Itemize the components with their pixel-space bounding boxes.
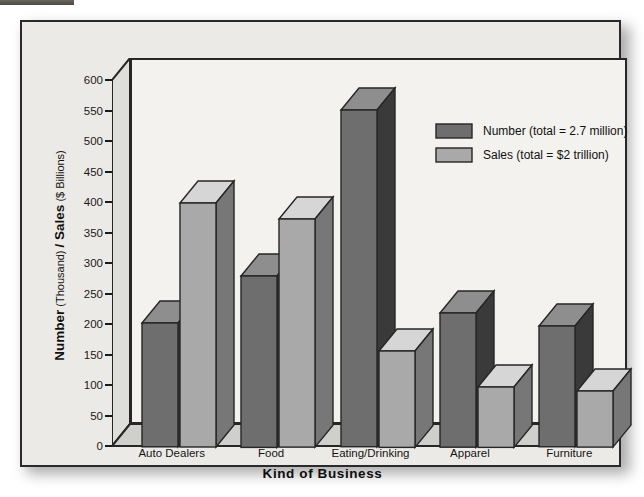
- y-tick-label: 500: [69, 135, 103, 147]
- y-tick: 350: [66, 227, 112, 239]
- y-tick: 500: [66, 135, 112, 147]
- y-tick-mark: [105, 140, 112, 142]
- y-tick-mark: [105, 262, 112, 264]
- y-tick-mark: [105, 79, 112, 81]
- x-axis-label: Auto Dealers: [138, 447, 204, 459]
- y-tick-mark: [105, 201, 112, 203]
- y-axis: 050100150200250300350400450500550600: [66, 58, 112, 450]
- y-tick-label: 200: [69, 318, 103, 330]
- y-title-number: Number: [52, 310, 67, 361]
- y-tick: 400: [66, 196, 112, 208]
- y-tick-mark: [105, 293, 112, 295]
- y-tick: 450: [66, 166, 112, 178]
- plot-left-wall: [112, 58, 132, 444]
- bar-sales: [378, 328, 435, 445]
- y-tick: 300: [66, 257, 112, 269]
- y-tick-label: 400: [69, 196, 103, 208]
- y-tick-label: 50: [69, 410, 103, 422]
- y-tick: 250: [66, 288, 112, 300]
- y-tick-mark: [105, 232, 112, 234]
- x-axis-labels: Auto DealersFoodEating/DrinkingApparelFu…: [112, 447, 630, 463]
- y-tick: 150: [66, 349, 112, 361]
- page-edge-artifact: [0, 0, 74, 5]
- y-tick-label: 100: [69, 379, 103, 391]
- bar-sales: [477, 364, 534, 445]
- y-tick-mark: [105, 354, 112, 356]
- legend-sales-swatch: [435, 147, 473, 163]
- y-tick-label: 0: [69, 440, 103, 452]
- x-axis-label: Food: [258, 447, 284, 459]
- y-tick: 600: [66, 74, 112, 86]
- chart-figure: 050100150200250300350400450500550600 Num…: [20, 20, 621, 467]
- y-tick-label: 550: [69, 105, 103, 117]
- y-title-thousand: (Thousand): [54, 247, 66, 309]
- legend-sales-label: Sales (total = $2 trillion): [483, 147, 609, 163]
- bar-sales: [278, 196, 335, 445]
- legend-number-label: Number (total = 2.7 million): [483, 123, 627, 139]
- legend-number-swatch: [435, 123, 473, 139]
- y-tick-mark: [105, 384, 112, 386]
- y-tick-mark: [105, 323, 112, 325]
- y-title-billions: ($ Billions): [54, 150, 66, 204]
- legend-item: Sales (total = $2 trillion): [435, 146, 640, 167]
- y-title-sales: / Sales: [52, 205, 67, 248]
- y-tick-label: 350: [69, 227, 103, 239]
- bar-sales: [576, 368, 633, 445]
- y-tick-mark: [105, 445, 112, 447]
- y-tick-label: 300: [69, 257, 103, 269]
- y-tick: 100: [66, 379, 112, 391]
- y-tick-label: 450: [69, 166, 103, 178]
- x-axis-label: Furniture: [546, 447, 592, 459]
- y-tick-label: 250: [69, 288, 103, 300]
- y-tick-label: 600: [69, 74, 103, 86]
- chart-page: 050100150200250300350400450500550600 Num…: [0, 0, 644, 497]
- y-tick: 200: [66, 318, 112, 330]
- bar-sales: [179, 180, 236, 445]
- y-axis-title: Number (Thousand) / Sales ($ Billions): [50, 142, 68, 372]
- chart-legend: Number (total = 2.7 million) Sales (tota…: [435, 122, 640, 170]
- y-tick: 50: [66, 410, 112, 422]
- plot-area: Number (total = 2.7 million) Sales (tota…: [112, 58, 630, 445]
- y-tick-mark: [105, 171, 112, 173]
- x-axis-title: Kind of Business: [22, 466, 623, 481]
- y-tick-mark: [105, 110, 112, 112]
- y-tick-label: 150: [69, 349, 103, 361]
- x-axis-label: Eating/Drinking: [332, 447, 410, 459]
- y-tick: 550: [66, 105, 112, 117]
- legend-item: Number (total = 2.7 million): [435, 122, 640, 143]
- x-axis-label: Apparel: [450, 447, 490, 459]
- y-tick-mark: [105, 415, 112, 417]
- y-tick: 0: [66, 440, 112, 452]
